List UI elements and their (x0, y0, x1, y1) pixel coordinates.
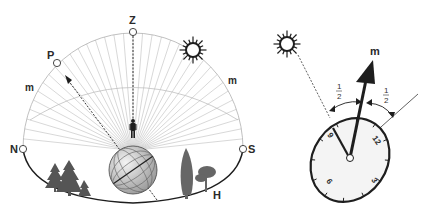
meridian-ray (137, 109, 236, 150)
half-right-numerator: 1 (384, 86, 389, 95)
watch-center-pivot (347, 155, 354, 162)
meridian-ray (43, 82, 130, 150)
pole-point (53, 59, 60, 66)
celestial-sphere-diagram: Z P N S H m m (10, 14, 255, 203)
half-left-numerator: 1 (337, 82, 342, 91)
meridian-ray (78, 49, 131, 150)
sun-direction-line (298, 55, 330, 118)
cypress-trees-icon (181, 148, 216, 199)
meridian-ray (135, 40, 171, 150)
diagram-canvas: Z P N S H m m 1 2 1 (0, 0, 432, 215)
sun-disc (186, 43, 200, 57)
half-right-denominator: 2 (384, 96, 389, 105)
meridian-ray (114, 35, 132, 150)
arc-arrow-icon (388, 112, 395, 118)
meridian-ray (137, 139, 242, 150)
south-label: S (248, 143, 255, 155)
meridian-label-left: m (25, 82, 34, 93)
meridian-ray (137, 82, 224, 150)
north-label: N (10, 143, 18, 155)
zenith-point (129, 28, 136, 35)
meridian-ray (136, 74, 217, 150)
sun-icon (274, 31, 301, 58)
pine-trees-icon (45, 160, 91, 196)
south-point (239, 145, 246, 152)
arc-arrow-icon (329, 105, 335, 112)
watch-compass-diagram: 1 2 1 2 m 12 3 6 9 (274, 31, 419, 216)
meridian-label-right: m (228, 75, 237, 86)
sun-icon (180, 37, 207, 64)
zenith-label: Z (129, 14, 136, 26)
arc-arrow-icon (366, 99, 372, 106)
meridian-label: m (370, 45, 380, 57)
meridian-ray (136, 54, 197, 150)
half-left-denominator: 2 (337, 92, 342, 101)
pole-label: P (47, 49, 54, 61)
pole-arrow-head (65, 75, 72, 84)
sun-disc (280, 37, 294, 51)
inner-arc (30, 88, 238, 121)
meridian-ray (135, 49, 188, 150)
horizon-label: H (213, 189, 221, 201)
north-point (19, 145, 26, 152)
meridian-arrow-head (356, 60, 375, 84)
meridian-ray (95, 40, 131, 150)
half-angle-arc-left (331, 102, 360, 110)
meridian-ray (70, 54, 131, 150)
meridian-ray (105, 37, 132, 150)
meridian-ray (134, 35, 152, 150)
meridian-ray (30, 109, 129, 150)
meridian-ray (134, 37, 161, 150)
meridian-ray (49, 74, 130, 150)
globe-icon (100, 141, 166, 199)
